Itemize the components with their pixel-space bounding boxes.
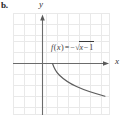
function-curve bbox=[13, 13, 110, 115]
part-label: b. bbox=[1, 0, 8, 10]
equation-label: f(x)=−√x−1 bbox=[51, 41, 94, 53]
radicand-operator: − bbox=[83, 43, 89, 52]
x-axis-label: x bbox=[115, 56, 119, 66]
y-axis-label: y bbox=[39, 0, 43, 9]
figure-panel: b. bbox=[0, 0, 124, 122]
equation-radicand: x−1 bbox=[79, 41, 94, 53]
equation-equals: = bbox=[64, 43, 70, 52]
sqrt-curve-path bbox=[53, 64, 106, 97]
radicand-constant: 1 bbox=[89, 43, 94, 52]
plot-area bbox=[13, 13, 110, 115]
equation-radical: √x−1 bbox=[75, 41, 94, 53]
